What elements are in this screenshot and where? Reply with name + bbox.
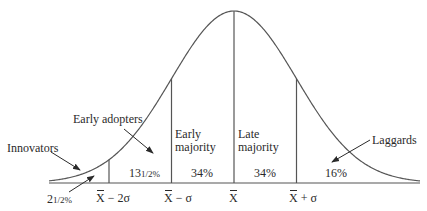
innovators-share-arrow bbox=[69, 176, 94, 192]
xbar-symbol: X bbox=[164, 192, 173, 205]
late-majority-label: Late majority bbox=[238, 128, 279, 154]
xbar-symbol: X bbox=[229, 192, 238, 205]
xbar-symbol: X bbox=[289, 192, 298, 205]
axis-mark-mean-plus-sigma: X + σ bbox=[289, 192, 317, 205]
innovators-label: Innovators bbox=[7, 142, 58, 155]
late-majority-share: 34% bbox=[254, 167, 276, 180]
bell-curve-diagram bbox=[0, 0, 427, 211]
early-majority-share: 34% bbox=[191, 167, 213, 180]
axis-mark-suffix: + σ bbox=[298, 191, 317, 205]
innovators-share-fraction: 1/2% bbox=[53, 195, 72, 205]
early-majority-label: Early majority bbox=[175, 128, 216, 154]
laggards-label: Laggards bbox=[372, 134, 417, 147]
early-adopters-share: 131/2% bbox=[129, 167, 160, 181]
axis-mark-suffix: − 2σ bbox=[105, 191, 130, 205]
early-adopters-share-whole: 13 bbox=[129, 166, 141, 180]
axis-mark-mean: X bbox=[229, 192, 238, 205]
early-majority-line2: majority bbox=[175, 141, 216, 154]
early-adopters-label: Early adopters bbox=[73, 113, 143, 126]
laggards-arrow bbox=[332, 140, 370, 162]
axis-mark-mean-minus-2sigma: X − 2σ bbox=[96, 192, 130, 205]
early-adopters-share-fraction: 1/2% bbox=[141, 169, 160, 179]
late-majority-line2: majority bbox=[238, 141, 279, 154]
axis-mark-suffix: − σ bbox=[173, 191, 192, 205]
innovators-share: 21/2% bbox=[47, 193, 72, 207]
xbar-symbol: X bbox=[96, 192, 105, 205]
axis-mark-mean-minus-sigma: X − σ bbox=[164, 192, 192, 205]
laggards-share: 16% bbox=[325, 167, 347, 180]
